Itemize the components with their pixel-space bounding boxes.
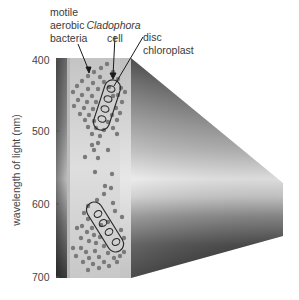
tick-label-600: 600 <box>32 198 50 210</box>
label-disc-chloroplast: disc chloroplast <box>143 31 194 56</box>
engelmann-experiment-diagram: motile aerobic bacteria Cladophora cell … <box>0 0 299 300</box>
tick-label-500: 500 <box>32 125 50 137</box>
light-spectrum-cone <box>131 58 283 278</box>
label-motile-aerobic-bacteria: motile aerobic bacteria <box>50 6 88 44</box>
axis-title: wavelength of light (nm) <box>10 114 22 226</box>
tick-label-400: 400 <box>32 54 50 66</box>
tick-label-700: 700 <box>32 271 50 283</box>
label-cladophora-cell: Cladophora cell <box>86 19 143 44</box>
